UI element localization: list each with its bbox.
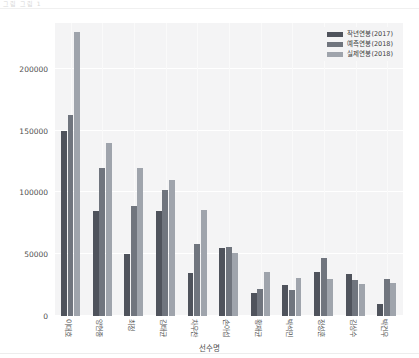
chart-figure: 작년연봉(2017)예측연봉(2018)실제연봉(2018) 050000100… — [0, 9, 419, 354]
y-tick-label: 150000 — [2, 126, 48, 135]
bottom-divider — [0, 353, 419, 354]
x-tick-label: 박건우 — [380, 319, 390, 337]
top-cropped-strip: 그림 그림 1 — [0, 0, 419, 9]
y-tick-label: 0 — [2, 312, 48, 321]
y-axis-ticks: 050000100000150000200000 — [0, 9, 419, 354]
top-ghost-text: 그림 그림 1 — [3, 0, 42, 8]
x-tick-label: 이대호 — [64, 319, 74, 337]
x-tick-label: 김상수 — [349, 319, 359, 337]
x-tick-label: 정성훈 — [317, 319, 327, 337]
y-tick-label: 50000 — [2, 250, 48, 259]
x-tick-label: 최정 — [127, 319, 137, 331]
x-tick-label: 차우찬 — [190, 319, 200, 337]
x-tick-label: 황재균 — [254, 319, 264, 337]
x-tick-label: 양현종 — [95, 319, 105, 337]
y-tick-label: 100000 — [2, 188, 48, 197]
y-tick-label: 200000 — [2, 64, 48, 73]
x-tick-label: 김태균 — [159, 319, 169, 337]
x-tick-label: 손아섭 — [222, 319, 232, 337]
x-tick-label: 박석민 — [285, 319, 295, 337]
x-axis-title: 선수명 — [0, 342, 419, 353]
